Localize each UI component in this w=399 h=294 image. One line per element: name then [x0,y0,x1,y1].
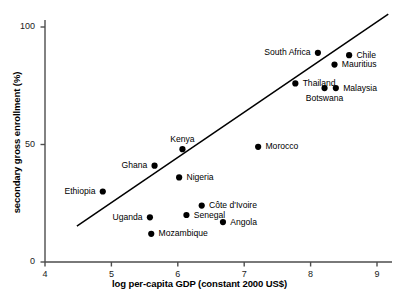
data-point [346,52,352,58]
data-point-label: Chile [356,51,376,60]
data-point-label: Côte d'Ivoire [209,201,257,210]
trend-line [77,14,388,226]
data-point [176,174,182,180]
y-tick-label: 0 [7,256,35,266]
data-point [100,188,106,194]
data-point-label: Botswana [265,94,385,103]
data-point [148,231,154,237]
data-point [147,214,153,220]
data-point [220,219,226,225]
data-point-label: Thailand [303,79,336,88]
data-point [199,203,205,209]
data-point-label: Uganda [113,213,143,222]
data-point-label: Ethiopia [64,187,95,196]
data-point [179,146,185,152]
data-point-label: Mozambique [159,229,208,238]
data-point-label: Kenya [122,135,242,144]
data-point [315,50,321,56]
y-tick-label: 100 [7,21,35,31]
data-point-label: Ghana [121,161,147,170]
data-point-label: South Africa [264,48,310,57]
y-axis-title: secondary gross enrollment (%) [11,43,22,243]
regression-line [77,14,388,226]
data-point-label: Senegal [194,211,226,220]
data-point [255,144,261,150]
data-point-label: Malaysia [343,84,377,93]
data-point-label: Mauritius [342,60,377,69]
x-axis-title: log per-capita GDP (constant 2000 US$) [0,278,399,289]
data-point-label: Angola [230,218,257,227]
scatter-chart: 050100456789 EthiopiaUgandaMozambiqueGha… [0,0,399,294]
plot-area [0,0,399,294]
data-point-label: Nigeria [186,173,213,182]
data-point [331,62,337,68]
data-point [292,80,298,86]
data-point [183,212,189,218]
data-point [151,163,157,169]
data-point-label: Morocco [265,142,298,151]
